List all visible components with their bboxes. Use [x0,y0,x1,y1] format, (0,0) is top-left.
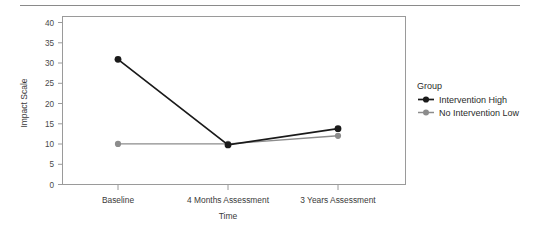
data-point-low-baseline [115,141,121,147]
chart-figure: 40 35 30 25 20 15 10 5 0 Impact Scale Ba… [0,0,540,236]
x-tick-label-3-years: 3 Years Assessment [300,195,376,205]
data-point-high-baseline [115,56,122,63]
x-axis-title: Time [219,211,238,221]
legend-title: Group [417,81,442,91]
legend-item-no-intervention-low[interactable]: No Intervention Low [418,108,520,118]
data-point-high-4months [225,142,232,149]
y-tick-label-10: 10 [45,140,55,149]
legend-label-no-intervention-low: No Intervention Low [439,108,520,118]
data-point-high-3years [335,125,342,132]
y-tick-label-30: 30 [45,59,55,68]
y-tick-label-25: 25 [45,79,55,88]
legend-marker-dot-low [423,110,429,116]
y-tick-label-0: 0 [49,181,54,190]
chart-legend: Group Intervention High No Intervention … [417,81,520,118]
legend-marker-dot-high [423,96,429,102]
x-axis-ticks [118,185,338,191]
y-tick-label-15: 15 [45,120,55,129]
x-tick-label-4-months: 4 Months Assessment [187,195,270,205]
legend-label-intervention-high: Intervention High [439,95,507,105]
data-point-low-3years [335,133,341,139]
y-tick-label-35: 35 [45,39,55,48]
y-axis-ticks [58,23,63,185]
y-axis-title: Impact Scale [19,78,29,127]
y-tick-label-5: 5 [49,160,54,169]
line-chart: 40 35 30 25 20 15 10 5 0 Impact Scale Ba… [0,0,540,236]
legend-item-intervention-high[interactable]: Intervention High [418,95,507,105]
plot-frame [63,17,406,185]
y-tick-label-40: 40 [45,19,55,28]
x-tick-label-baseline: Baseline [102,195,134,205]
y-tick-label-20: 20 [45,100,55,109]
